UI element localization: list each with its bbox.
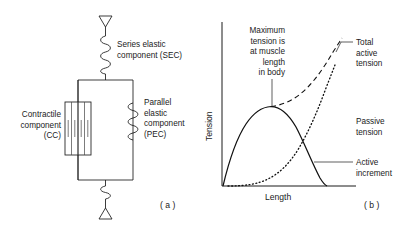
- callout-passive-line-2: tension: [356, 128, 383, 137]
- cc-label-line-1: Contractile: [22, 110, 62, 119]
- series-passive-tension: [228, 65, 335, 186]
- model-frame: [78, 80, 133, 180]
- pec-label-line-1: Parallel: [144, 98, 171, 107]
- cc-label-line-3: (CC): [44, 131, 62, 140]
- callout-passive-line-1: Passive: [356, 117, 385, 126]
- panel-b: Tension Length Maximum tension is at mus…: [204, 22, 393, 210]
- chart-annotation-maximum-tension: Maximum tension is at muscle length in b…: [250, 26, 286, 106]
- chart-axes: [222, 22, 356, 186]
- y-axis-label: Tension: [204, 111, 214, 141]
- callout-active-increment: Active increment: [314, 158, 393, 178]
- annotation-line-2: tension is: [250, 37, 285, 46]
- callout-active-line-1: Active: [356, 158, 379, 167]
- callout-passive-tension: Passive tension: [356, 117, 385, 137]
- cc-label-line-2: component: [20, 121, 61, 130]
- pec-label-line-2: elastic: [144, 109, 167, 118]
- pec-label: Parallel elastic component (PEC): [144, 98, 185, 139]
- bottom-terminal-triangle-icon: [99, 208, 112, 219]
- pec-label-line-4: (PEC): [144, 130, 167, 139]
- cc-label: Contractile component (CC): [20, 110, 61, 140]
- callout-total-line-2: active: [356, 49, 378, 58]
- callout-active-line-2: increment: [356, 169, 393, 178]
- panel-b-caption: ( b ): [364, 200, 379, 210]
- top-terminal-triangle-icon: [99, 16, 112, 36]
- bottom-lead: [101, 180, 111, 208]
- callout-total-line-3: tension: [356, 59, 383, 68]
- callout-total-line-1: Total: [356, 38, 373, 47]
- sec-label: Series elastic component (SEC): [117, 40, 182, 60]
- contractile-element-icon: [65, 102, 91, 155]
- sec-label-line-2: component (SEC): [117, 51, 182, 60]
- annotation-line-3: at muscle: [250, 47, 285, 56]
- x-axis-label: Length: [265, 192, 292, 202]
- figure-root: Series elastic component (SEC) Contracti…: [0, 0, 401, 232]
- callout-total-active-tension: Total active tension: [336, 38, 383, 68]
- sec-label-line-1: Series elastic: [117, 40, 166, 49]
- annotation-line-1: Maximum: [250, 26, 286, 35]
- pec-label-line-3: component: [144, 119, 185, 128]
- sec-spring-coil-icon: [101, 36, 111, 80]
- annotation-line-5: in body: [259, 68, 286, 77]
- panel-a-caption: ( a ): [160, 200, 175, 210]
- annotation-line-4: length: [263, 58, 286, 67]
- panel-a: Series elastic component (SEC) Contracti…: [20, 16, 185, 219]
